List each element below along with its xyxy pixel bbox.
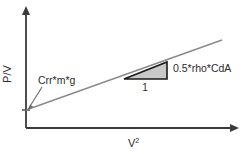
figure-container: P/V V2 Crr*m*g 0.5*rho*CdA 1 [0, 0, 249, 155]
run-annotation-label: 1 [142, 82, 148, 93]
plot-svg: P/V V2 Crr*m*g 0.5*rho*CdA 1 [0, 0, 249, 155]
x-axis [26, 124, 239, 132]
x-axis-label-exponent: 2 [135, 137, 139, 144]
x-axis-label: V2 [128, 137, 139, 149]
leader-line [30, 87, 43, 107]
x-axis-arrow-icon [230, 124, 239, 132]
y-axis-label: P/V [1, 64, 13, 82]
intercept-annotation-label: Crr*m*g [38, 74, 75, 86]
y-axis-arrow-icon [22, 6, 30, 15]
slope-triangle [124, 62, 167, 79]
slope-annotation-label: 0.5*rho*CdA [173, 62, 231, 74]
